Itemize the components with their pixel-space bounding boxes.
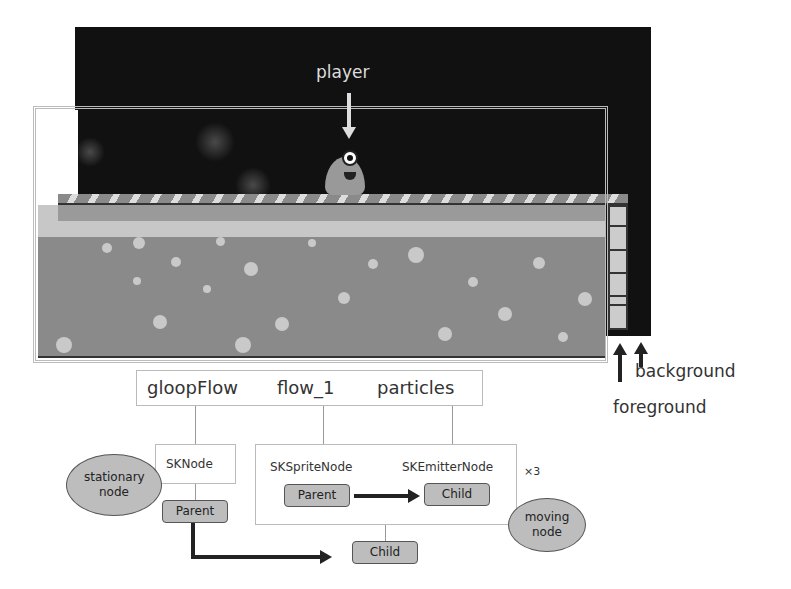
parent-child-arrow-shaft — [191, 555, 321, 559]
right-arrow-icon — [408, 489, 420, 503]
down-arrow-icon — [342, 127, 356, 139]
skemitternode-class-label: SKEmitterNode — [402, 460, 493, 474]
player-arrow-shaft — [347, 93, 351, 129]
foreground-label: foreground — [613, 397, 707, 417]
moving-node-note: moving node — [508, 498, 586, 552]
connector-line — [195, 406, 196, 444]
sknode-class-label: SKNode — [166, 457, 213, 471]
parent-child-arrow-shaft — [191, 523, 195, 557]
sprite-emitter-arrow-shaft — [354, 494, 410, 498]
sprite-parent-pill: Parent — [284, 484, 350, 507]
connector-line — [195, 484, 196, 500]
player-eye-icon — [342, 150, 358, 166]
foreground-arrow-shaft — [618, 354, 622, 382]
connector-line — [323, 406, 324, 444]
node-name-gloopflow: gloopFlow — [147, 377, 238, 398]
right-arrow-icon — [320, 550, 332, 564]
foreground-layer-frame — [33, 106, 608, 363]
sknode-box: SKNode — [155, 444, 236, 484]
node-name-flow1: flow_1 — [277, 377, 335, 398]
outer-child-pill: Child — [352, 541, 418, 564]
background-label: background — [635, 361, 736, 381]
stationary-node-text: stationary node — [84, 470, 144, 500]
node-name-particles: particles — [377, 377, 454, 398]
player-label: player — [316, 62, 369, 82]
connector-line — [452, 406, 453, 444]
connector-line — [385, 525, 386, 541]
foreground-edge-column — [608, 205, 628, 330]
node-names-bar: gloopFlow flow_1 particles — [136, 370, 483, 406]
emitter-child-pill: Child — [424, 483, 490, 506]
skspritenode-class-label: SKSpriteNode — [270, 460, 352, 474]
moving-node-text: moving node — [522, 510, 572, 540]
multiplier-label: ×3 — [524, 465, 540, 478]
sknode-parent-pill: Parent — [162, 500, 228, 523]
stationary-node-note: stationary node — [66, 454, 162, 516]
